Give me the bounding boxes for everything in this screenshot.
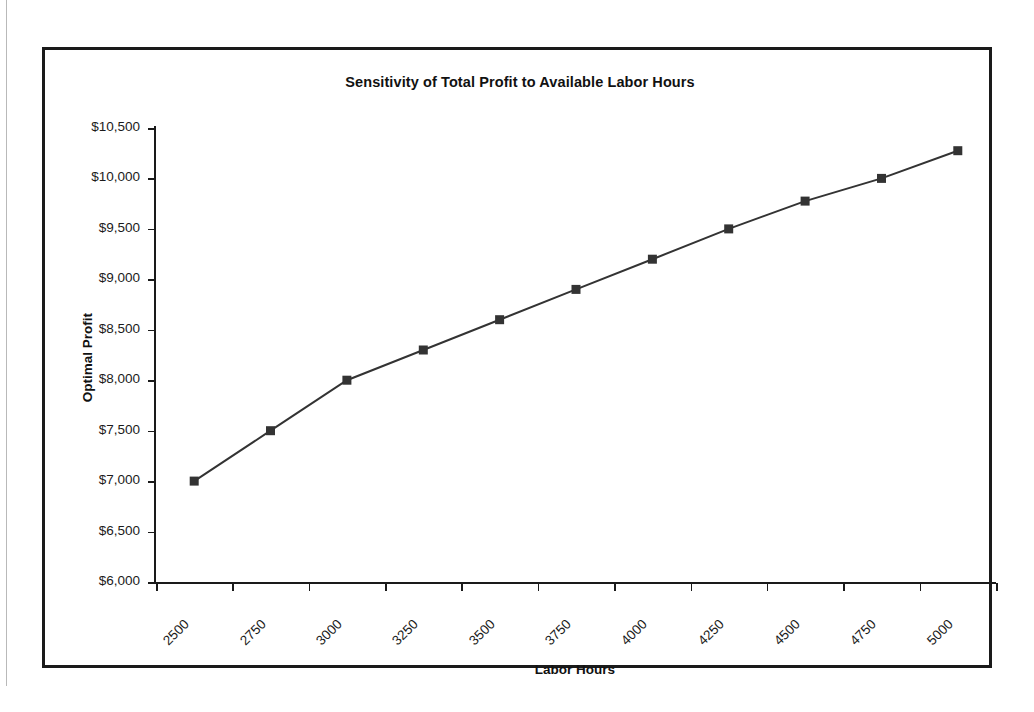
- data-point-marker: [190, 477, 199, 486]
- data-point-marker: [877, 174, 886, 183]
- series-line: [194, 151, 958, 481]
- data-series: [45, 50, 995, 671]
- data-point-marker: [419, 346, 428, 355]
- data-point-marker: [342, 376, 351, 385]
- data-point-marker: [648, 255, 657, 264]
- data-point-marker: [801, 197, 810, 206]
- x-axis-tick: [996, 583, 998, 591]
- page-margin-rule: [6, 0, 7, 686]
- data-point-marker: [724, 224, 733, 233]
- data-point-marker: [495, 315, 504, 324]
- clipped-text-above: [0, 0, 1034, 8]
- data-point-marker: [266, 426, 275, 435]
- plot-area: $10,500$10,000$9,500$9,000$8,500$8,000$7…: [45, 50, 995, 671]
- chart-frame: Sensitivity of Total Profit to Available…: [42, 47, 992, 668]
- data-point-marker: [953, 146, 962, 155]
- data-point-marker: [572, 285, 581, 294]
